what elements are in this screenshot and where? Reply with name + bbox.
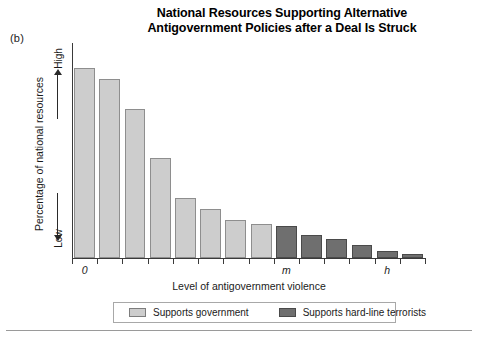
bar [326,239,347,258]
chart-title-line-1: National Resources Supporting Alternativ… [157,6,407,20]
y-axis-label: Percentage of national resources [33,59,45,249]
x-axis-tick-label-0: 0 [82,264,88,276]
x-axis-tick-label-m: m [282,264,291,276]
legend-swatch-dark-icon [279,308,296,317]
x-axis-tick-label-h: h [384,264,390,276]
plot-area [72,45,425,258]
legend-item-supports-hardline-terrorists: Supports hard-line terrorists [279,307,426,318]
x-axis-label: Level of antigovernment violence [72,280,426,292]
bar [99,79,120,258]
bar [301,235,322,258]
legend-label-supports-hardline-terrorists: Supports hard-line terrorists [303,307,426,318]
x-axis-tick-labels: 0mh [72,264,426,278]
legend-label-supports-government: Supports government [153,307,249,318]
y-axis-up-arrow-stem [57,75,58,119]
chart-figure: (b) National Resources Supporting Altern… [0,0,478,339]
chart-title-line-2: Antigovernment Policies after a Deal Is … [147,21,416,35]
bar-series-container [72,45,425,258]
bar [402,254,423,258]
footer-divider [6,330,472,331]
bar [74,68,95,258]
y-axis-low-caption: Low [53,221,64,257]
bar [150,158,171,258]
legend-item-supports-government: Supports government [129,307,249,318]
bar [251,224,272,258]
bar [276,226,297,258]
chart-title: National Resources Supporting Alternativ… [96,6,468,36]
bar [352,245,373,258]
bar [225,220,246,258]
chart-legend: Supports government Supports hard-line t… [113,302,396,323]
bar [200,209,221,258]
legend-swatch-light-icon [129,308,146,317]
bar [125,109,146,258]
panel-letter: (b) [10,32,24,44]
bar [377,251,398,258]
y-axis-scale-indicator: High Low [50,45,66,258]
bar [175,198,196,258]
